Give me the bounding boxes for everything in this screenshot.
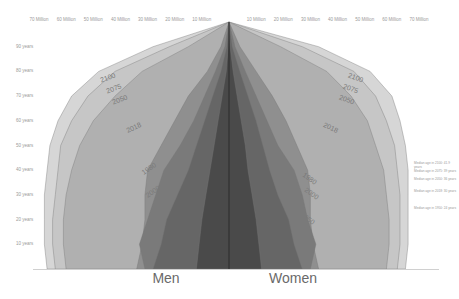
x-axis-baseline [33,269,439,270]
median-age-annotation: Median age in 2075: 39 years [414,169,458,173]
x-tick-right: 70 Million [409,17,428,22]
median-age-annotation: Median age in 2100: 41.9 years [414,161,458,169]
median-age-annotation: Median age in 1950: 24 years [414,206,458,210]
y-tick: 10 years [16,241,33,246]
x-tick-left: 50 Million [84,17,103,22]
x-tick-left: 60 Million [57,17,76,22]
x-tick-left: 40 Million [111,17,130,22]
x-tick-right: 10 Million [247,17,266,22]
population-pyramid-chart [0,0,459,299]
y-tick: 60 years [16,118,33,123]
x-tick-right: 40 Million [328,17,347,22]
y-tick: 70 years [16,93,33,98]
y-tick: 90 years [16,44,33,49]
x-tick-right: 50 Million [355,17,374,22]
pyramid-layers [44,22,408,269]
x-tick-left: 70 Million [29,17,48,22]
median-age-annotation: Median age in 2050: 36 years [414,177,458,181]
women-label: Women [269,270,317,286]
y-tick: 30 years [16,192,33,197]
men-label: Men [152,270,179,286]
y-tick: 50 years [16,143,33,148]
x-tick-right: 60 Million [382,17,401,22]
x-tick-left: 10 Million [192,17,211,22]
x-tick-left: 20 Million [165,17,184,22]
median-age-annotation: Median age in 2018: 30 years [414,189,458,193]
x-tick-left: 30 Million [138,17,157,22]
y-tick: 80 years [16,68,33,73]
x-tick-right: 30 Million [301,17,320,22]
y-tick: 20 years [16,217,33,222]
x-tick-right: 20 Million [274,17,293,22]
y-tick: 40 years [16,167,33,172]
